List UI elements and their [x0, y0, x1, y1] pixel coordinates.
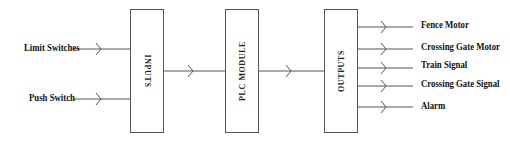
output-label-alarm: Alarm — [421, 102, 445, 112]
inputs-block-title: INPUTS — [143, 55, 152, 88]
outputs-block-title: OUTPUTS — [337, 50, 346, 92]
plc-block-diagram: INPUTS PLC MODULE OUTPUTS Limit Switches… — [0, 0, 510, 145]
input-label-push-switch: Push Switch — [29, 94, 75, 104]
plc-module-block: PLC MODULE — [225, 9, 259, 133]
output-label-fence-motor: Fence Motor — [421, 21, 469, 31]
input-label-limit-switches: Limit Switches — [24, 44, 80, 54]
outputs-block: OUTPUTS — [324, 9, 358, 133]
output-label-crossing-gate-motor: Crossing Gate Motor — [421, 43, 500, 53]
output-label-train-signal: Train Signal — [421, 61, 467, 71]
output-label-crossing-gate-signal: Crossing Gate Signal — [421, 80, 500, 90]
plc-module-block-title: PLC MODULE — [238, 41, 247, 101]
inputs-block: INPUTS — [130, 9, 164, 133]
